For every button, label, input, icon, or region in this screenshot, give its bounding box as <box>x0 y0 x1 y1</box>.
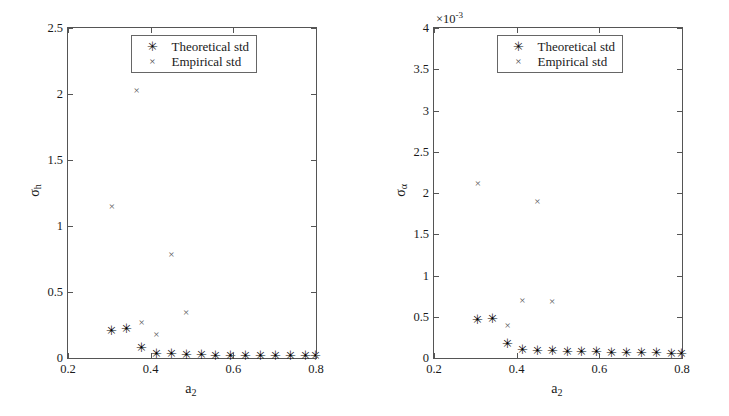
x-tick-label: 0.8 <box>308 362 324 377</box>
y-tick-mark-mirror <box>677 111 682 112</box>
y-tick-label: 3 <box>423 103 429 118</box>
y-tick-label: 3.5 <box>413 62 429 77</box>
x-tick-mark-mirror <box>68 28 69 33</box>
legend-label-empirical: Empirical std <box>533 54 607 70</box>
data-point-theoretical: ✳ <box>151 346 162 359</box>
data-point-theoretical: ✳ <box>547 344 558 357</box>
x-tick-mark <box>434 353 435 358</box>
legend-label-theoretical: Theoretical std <box>533 39 615 55</box>
data-point-theoretical: ✳ <box>591 345 602 358</box>
plot-axes-left: ✳✳✳✳✳✳✳✳✳✳✳✳✳✳✳×××××× 00.511.522.50.20.4… <box>67 27 317 359</box>
y-tick-label: 0.5 <box>413 309 429 324</box>
x-tick-mark-mirror <box>434 28 435 33</box>
x-axis-title-right: a2 <box>551 381 562 398</box>
x-tick-mark-mirror <box>151 28 152 33</box>
y-tick-mark <box>434 193 439 194</box>
plot-axes-right: ✳✳✳✳✳✳✳✳✳✳✳✳✳✳✳×××××× 00.511.522.533.540… <box>433 27 683 359</box>
y-tick-mark <box>68 358 73 359</box>
data-point-theoretical: ✳ <box>136 340 147 353</box>
x-tick-mark-mirror <box>233 28 234 33</box>
x-tick-mark <box>68 353 69 358</box>
asterisk-marker-icon: ✳ <box>137 40 167 53</box>
y-tick-mark-mirror <box>677 358 682 359</box>
data-point-theoretical: ✳ <box>487 311 498 324</box>
data-point-theoretical: ✳ <box>636 346 647 359</box>
plot-area-right: ✳✳✳✳✳✳✳✳✳✳✳✳✳✳✳×××××× <box>434 28 682 358</box>
x-axis-title-subscript: 2 <box>558 387 563 398</box>
y-tick-mark <box>434 276 439 277</box>
y-tick-label: 2.5 <box>47 21 63 36</box>
data-point-theoretical: ✳ <box>225 348 236 361</box>
cross-marker-icon: × <box>503 56 533 67</box>
y-tick-label: 1 <box>423 268 429 283</box>
legend-right: ✳ Theoretical std × Empirical std <box>497 35 623 73</box>
data-point-theoretical: ✳ <box>517 342 528 355</box>
legend-left: ✳ Theoretical std × Empirical std <box>131 35 257 73</box>
y-tick-mark-mirror <box>677 69 682 70</box>
legend-item-empirical: × Empirical std <box>137 54 249 69</box>
plot-area-left: ✳✳✳✳✳✳✳✳✳✳✳✳✳✳✳×××××× <box>68 28 316 358</box>
y-axis-title-symbol: σ <box>393 189 408 197</box>
x-tick-label: 0.6 <box>592 362 608 377</box>
y-tick-mark <box>434 317 439 318</box>
y-tick-label: 4 <box>423 21 429 36</box>
data-point-empirical: × <box>134 85 140 96</box>
cross-marker-icon: × <box>137 56 167 67</box>
y-axis-title-subscript: α <box>398 184 409 189</box>
data-point-empirical: × <box>475 178 481 189</box>
data-point-theoretical: ✳ <box>196 348 207 361</box>
multiplier-base: ×10 <box>436 12 456 26</box>
multiplier-exponent: -3 <box>456 10 464 20</box>
y-axis-title-left: σh <box>27 170 44 210</box>
y-tick-label: 2.5 <box>413 144 429 159</box>
data-point-empirical: × <box>153 329 159 340</box>
data-point-theoretical: ✳ <box>106 323 117 336</box>
y-tick-mark <box>68 226 73 227</box>
y-tick-mark <box>434 234 439 235</box>
data-point-empirical: × <box>168 248 174 259</box>
y-tick-mark <box>434 152 439 153</box>
legend-label-theoretical: Theoretical std <box>167 39 249 55</box>
data-point-theoretical: ✳ <box>121 322 132 335</box>
data-point-theoretical: ✳ <box>166 347 177 360</box>
x-axis-title-left: a2 <box>185 381 196 398</box>
data-point-empirical: × <box>519 295 525 306</box>
data-point-theoretical: ✳ <box>651 346 662 359</box>
x-tick-label: 0.2 <box>60 362 76 377</box>
y-tick-mark <box>434 69 439 70</box>
data-point-empirical: × <box>534 196 540 207</box>
y-tick-mark <box>68 94 73 95</box>
x-tick-label: 0.4 <box>509 362 525 377</box>
y-axis-multiplier-right: ×10-3 <box>436 10 463 27</box>
legend-item-theoretical: ✳ Theoretical std <box>503 39 615 54</box>
x-tick-label: 0.2 <box>426 362 442 377</box>
data-point-empirical: × <box>504 320 510 331</box>
data-point-theoretical: ✳ <box>562 344 573 357</box>
data-point-theoretical: ✳ <box>210 348 221 361</box>
y-tick-mark <box>434 358 439 359</box>
chart-panel-left: ✳✳✳✳✳✳✳✳✳✳✳✳✳✳✳×××××× 00.511.522.50.20.4… <box>0 0 364 416</box>
y-tick-mark-mirror <box>677 276 682 277</box>
x-tick-mark <box>517 353 518 358</box>
y-tick-mark-mirror <box>311 160 316 161</box>
legend-item-empirical: × Empirical std <box>503 54 615 69</box>
y-tick-label: 2 <box>57 87 63 102</box>
legend-label-empirical: Empirical std <box>167 54 241 70</box>
x-tick-label: 0.4 <box>143 362 159 377</box>
data-point-theoretical: ✳ <box>532 343 543 356</box>
y-axis-title-subscript: h <box>32 184 43 189</box>
data-point-theoretical: ✳ <box>472 312 483 325</box>
data-point-theoretical: ✳ <box>181 348 192 361</box>
y-tick-mark-mirror <box>677 193 682 194</box>
y-tick-mark-mirror <box>311 94 316 95</box>
x-tick-label: 0.6 <box>226 362 242 377</box>
x-tick-mark-mirror <box>599 28 600 33</box>
y-tick-mark-mirror <box>311 226 316 227</box>
data-point-theoretical: ✳ <box>621 346 632 359</box>
data-point-theoretical: ✳ <box>240 348 251 361</box>
y-tick-mark <box>68 292 73 293</box>
x-tick-mark <box>599 353 600 358</box>
y-tick-label: 0.5 <box>47 285 63 300</box>
y-tick-mark-mirror <box>311 358 316 359</box>
y-axis-title-right: σα <box>393 170 410 210</box>
